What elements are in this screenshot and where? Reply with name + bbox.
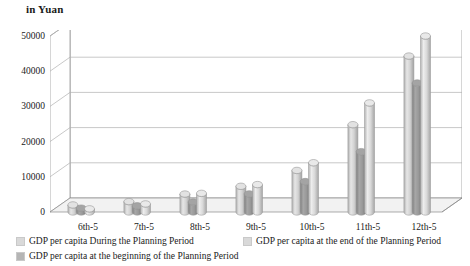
legend-swatch-icon: [16, 252, 25, 261]
x-axis-tick-6th-5: 6th-5: [78, 221, 98, 233]
x-axis-tick-12th-5: 12th-5: [412, 221, 437, 233]
x-axis-tick-11th-5: 11th-5: [356, 221, 380, 233]
legend-label: GDP per capita During the Planning Perio…: [29, 236, 194, 247]
x-axis-tick-8th-5: 8th-5: [190, 221, 210, 233]
legend-label: GDP per capita at the end of the Plannin…: [256, 236, 441, 247]
x-axis-tick-10th-5: 10th-5: [300, 221, 325, 233]
y-axis-tick-20000: 20000: [21, 137, 45, 147]
y-axis-tick-50000: 50000: [21, 31, 45, 41]
legend-entry-2[interactable]: GDP per capita at the end of the Plannin…: [243, 236, 441, 247]
y-axis-tick-30000: 30000: [21, 101, 45, 111]
x-axis-tick-labels: 6th-57th-58th-59th-510th-511th-512th-5: [50, 221, 462, 235]
y-axis-tick-10000: 10000: [21, 172, 45, 182]
legend-swatch-icon: [243, 237, 252, 246]
plot-area: [50, 30, 462, 220]
x-axis-tick-7th-5: 7th-5: [134, 221, 154, 233]
legend-entry-1[interactable]: GDP per capita During the Planning Perio…: [16, 236, 194, 247]
legend-swatch-icon: [16, 237, 25, 246]
legend-label: GDP per capita at the beginning of the P…: [29, 251, 238, 262]
legend-entry-3[interactable]: GDP per capita at the beginning of the P…: [16, 251, 238, 262]
chart-legend: GDP per capita During the Planning Perio…: [0, 236, 470, 266]
y-axis-tick-40000: 40000: [21, 66, 45, 76]
y-axis-tick-labels: 01000020000300004000050000: [0, 0, 48, 266]
y-axis-tick-0: 0: [40, 207, 45, 217]
x-axis-tick-9th-5: 9th-5: [246, 221, 266, 233]
gdp-per-capita-bar-chart: in Yuan 01000020000300004000050000 6th-5…: [0, 0, 470, 266]
plot-canvas: [50, 30, 462, 220]
